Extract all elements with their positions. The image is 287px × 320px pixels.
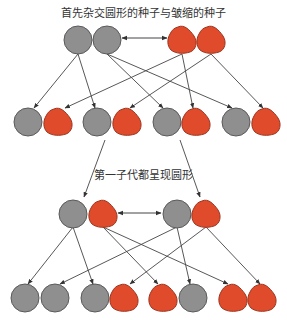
inheritance-arrow (182, 54, 193, 108)
inheritance-arrow (177, 227, 190, 284)
round-seed-icon (179, 284, 207, 312)
row-f1-cross (59, 200, 220, 228)
inheritance-arrow (206, 227, 260, 284)
inheritance-arrow (130, 54, 211, 108)
inheritance-arrow (28, 227, 73, 284)
inheritance-arrow (65, 54, 182, 108)
round-seed-icon (14, 108, 42, 136)
wrinkled-seed-icon (252, 108, 280, 135)
round-seed-icon (83, 108, 111, 136)
inheritance-arrow (107, 54, 163, 108)
row-f1-gametes (14, 108, 280, 136)
inheritance-arrow (130, 227, 206, 284)
inheritance-arrow (34, 54, 78, 108)
inheritance-arrow (73, 227, 93, 284)
round-seed-icon (64, 26, 92, 54)
title-parent-cross: 首先杂交圆形的种子与皱缩的种子 (61, 4, 226, 20)
round-seed-icon (222, 108, 250, 136)
wrinkled-seed-icon (219, 284, 247, 311)
wrinkled-seed-icon (110, 284, 138, 311)
title-f1-round: 第一子代都呈现圆形 (94, 166, 193, 182)
round-seed-icon (93, 26, 121, 54)
round-seed-icon (163, 200, 191, 228)
wrinkled-seed-icon (197, 26, 225, 53)
inheritance-arrow (211, 54, 263, 108)
row-parents (64, 26, 225, 54)
round-seed-icon (81, 284, 109, 312)
row-f2 (11, 284, 276, 312)
round-seed-icon (41, 284, 69, 312)
round-seed-icon (11, 284, 39, 312)
wrinkled-seed-icon (192, 200, 220, 227)
round-seed-icon (153, 108, 181, 136)
wrinkled-seed-icon (149, 284, 177, 311)
inheritance-arrow (103, 227, 158, 284)
inheritance-arrow (107, 54, 232, 108)
inheritance-arrow (103, 227, 228, 284)
wrinkled-seed-icon (44, 108, 72, 135)
wrinkled-seed-icon (248, 284, 276, 311)
wrinkled-seed-icon (89, 200, 117, 227)
wrinkled-seed-icon (168, 26, 196, 53)
inheritance-arrow (60, 227, 177, 284)
inheritance-arrow (78, 54, 95, 108)
wrinkled-seed-icon (113, 108, 141, 135)
wrinkled-seed-icon (182, 108, 210, 135)
mendel-cross-diagram (0, 0, 287, 320)
round-seed-icon (59, 200, 87, 228)
